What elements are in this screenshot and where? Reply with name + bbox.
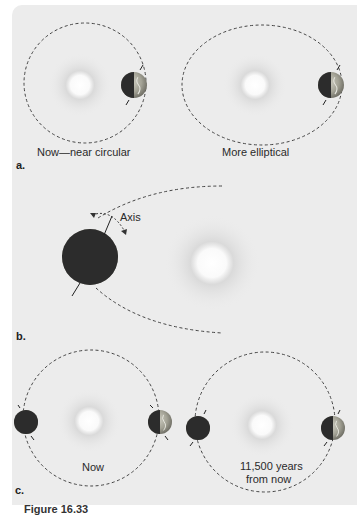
panel-letter-b: b.: [16, 330, 26, 342]
panel-letter-a: a.: [16, 159, 25, 171]
label-future-line1: 11,500 years: [240, 460, 303, 472]
sun-icon: [164, 215, 260, 311]
label-near-circular: Now—near circular: [37, 146, 131, 158]
label-axis: Axis: [120, 211, 141, 223]
sun-icon: [57, 389, 121, 453]
figure-caption: Figure 16.33: [24, 503, 88, 515]
label-more-elliptical: More elliptical: [222, 146, 289, 158]
label-future-line2: from now: [246, 473, 291, 485]
sun-icon: [230, 393, 294, 457]
earth-icon: [62, 229, 118, 285]
panel-a: [24, 23, 344, 145]
panel-letter-c: c.: [15, 484, 24, 496]
sun-icon: [48, 53, 112, 117]
earth-icon: [186, 416, 210, 440]
earth-icon: [148, 410, 172, 434]
label-now: Now: [82, 461, 104, 473]
panel-b: [62, 186, 260, 333]
earth-icon: [14, 410, 38, 434]
earth-icon: [321, 416, 345, 440]
earth-icon: [318, 72, 344, 98]
earth-icon: [121, 72, 147, 98]
sun-icon: [223, 53, 287, 117]
